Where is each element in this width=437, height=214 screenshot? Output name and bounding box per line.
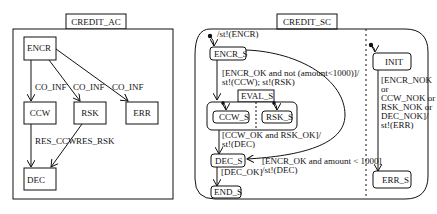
edge-eval-dec-label-2: st!(DEC) (222, 139, 255, 149)
edge-initial-init (371, 45, 375, 52)
edge-encr-rsk-label: CO_INF (73, 82, 105, 92)
state-rsk-label: RSK (81, 108, 99, 118)
credit-sc-diagram: CREDIT_SC /st!(ENCR) ENCR_S [ENCR_OK and… (195, 14, 435, 199)
state-ccw-label: CCW (30, 108, 51, 118)
state-end-s-label: END_S (214, 187, 242, 197)
edge-initial-encr-label: /st!(ENCR) (217, 29, 259, 39)
state-encr-label: ENCR (27, 43, 51, 53)
credit-ac-title: CREDIT_AC (71, 17, 121, 27)
edge-encr-err-label: CO_INF (112, 82, 144, 92)
state-encr-s-label: ENCR_S (214, 49, 248, 59)
edge-encr-dec-label-2: /st!(DEC) (262, 165, 298, 175)
state-err-label: ERR (133, 108, 151, 118)
state-init-label: INIT (385, 57, 403, 67)
state-rsk-s-label: RSK_S (266, 112, 293, 122)
edge-init-err-label-6: st!(ERR) (381, 120, 414, 130)
state-dec-label: DEC (27, 175, 45, 185)
edge-init-err-label-1: [ENCR_NOK (381, 75, 432, 85)
diagram-canvas: CREDIT_AC ENCR CCW RSK ERR DEC CO_INF CO… (0, 0, 437, 214)
credit-ac-diagram: CREDIT_AC ENCR CCW RSK ERR DEC CO_INF CO… (13, 14, 173, 199)
state-ccw-s-label: CCW_S (219, 112, 249, 122)
state-eval-s-label: EVAL_S (241, 91, 273, 101)
credit-sc-title: CREDIT_SC (283, 17, 331, 27)
edge-encr-eval-label-2: st!(CCW); st!(RSK) (222, 77, 295, 87)
edge-dec-end-label: [DEC_OK] (221, 167, 263, 177)
edge-encr-ccw-label: CO_INF (35, 82, 67, 92)
state-dec-s-label: DEC_S (215, 156, 243, 166)
edge-ccw-dec-label: RES_CCW (35, 136, 77, 146)
state-err-s-label: ERR_S (382, 175, 409, 185)
edge-rsk-dec-label: RES_RSK (76, 136, 115, 146)
